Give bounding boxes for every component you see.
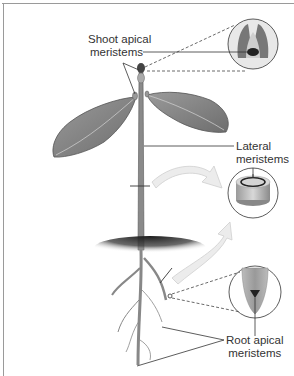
right-leaf (147, 92, 228, 132)
diagram-frame: Shoot apical meristems Lateral meristems… (0, 0, 294, 376)
shoot-tip-detail-circle (228, 19, 278, 69)
shoot-apical-label-line1: Shoot apical (88, 33, 151, 46)
cut-mark (160, 268, 172, 283)
root-tip-marker (168, 294, 172, 298)
lateral-label-line2: meristems (236, 153, 289, 166)
lateral-label-line1: Lateral (236, 140, 289, 153)
shoot-apical-label: Shoot apical meristems (88, 33, 151, 59)
soil (94, 236, 206, 260)
leader-line (162, 327, 224, 340)
dashed-guide (172, 298, 240, 312)
left-leaf (53, 97, 136, 157)
shoot-apical-label-line2: meristems (88, 46, 151, 59)
arrow-to-stem-section (152, 166, 222, 188)
root-apical-label-line2: meristems (226, 347, 284, 360)
stem (133, 63, 150, 250)
roots (112, 250, 166, 365)
dashed-guide (145, 25, 235, 67)
root-apical-label-line1: Root apical (226, 334, 284, 347)
lateral-meristems-label: Lateral meristems (236, 140, 289, 166)
root-apical-label: Root apical meristems (226, 334, 284, 360)
